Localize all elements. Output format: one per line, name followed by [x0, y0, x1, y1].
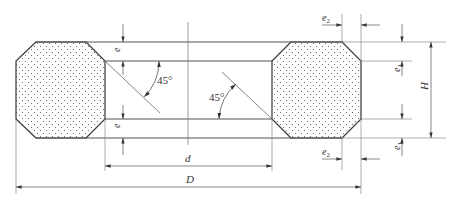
dimension-label-H: H — [418, 81, 430, 91]
dimension-label-d: d — [185, 152, 191, 164]
right-ring-section — [272, 42, 361, 138]
technical-drawing: 45° 45° e e d D e2 — [0, 0, 459, 213]
angle-label-right: 45° — [209, 91, 224, 103]
dimension-label-e-top: e — [111, 47, 122, 52]
angle-label-left: 45° — [157, 74, 172, 86]
diagonal-right — [222, 72, 272, 119]
dimension-label-D: D — [185, 173, 194, 185]
dimension-label-e-bottom: e — [111, 123, 122, 128]
dimension-label-e2-top: e2 — [322, 12, 330, 25]
left-ring-section — [16, 42, 105, 138]
dimension-label-e2-bottom: e2 — [322, 146, 330, 159]
